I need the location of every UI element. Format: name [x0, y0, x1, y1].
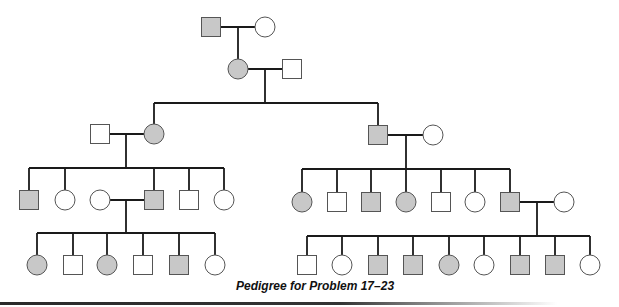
unaffected-male-icon [180, 191, 199, 210]
unaffected-female-icon [580, 255, 600, 275]
affected-male-icon [362, 193, 381, 212]
unaffected-male-icon [298, 256, 317, 275]
figure-caption: Pedigree for Problem 17–23 [236, 279, 394, 293]
unaffected-female-icon [205, 255, 225, 275]
affected-female-icon [439, 255, 459, 275]
unaffected-male-icon [328, 193, 347, 212]
pedigree-lines [29, 27, 590, 255]
affected-male-icon [202, 18, 221, 37]
affected-female-icon [97, 255, 117, 275]
affected-male-icon [369, 126, 388, 145]
affected-female-icon [292, 192, 312, 212]
bottom-rule [0, 302, 619, 305]
affected-female-icon [144, 124, 164, 144]
unaffected-male-icon [91, 125, 110, 144]
affected-female-icon [396, 192, 416, 212]
unaffected-female-icon [90, 190, 110, 210]
affected-female-icon [27, 255, 47, 275]
affected-male-icon [501, 193, 520, 212]
unaffected-male-icon [432, 193, 451, 212]
unaffected-female-icon [255, 17, 275, 37]
unaffected-female-icon [214, 190, 234, 210]
affected-male-icon [20, 191, 39, 210]
unaffected-male-icon [134, 256, 153, 275]
affected-female-icon [228, 59, 248, 79]
unaffected-male-icon [64, 256, 83, 275]
unaffected-female-icon [554, 192, 574, 212]
unaffected-female-icon [474, 255, 494, 275]
affected-male-icon [145, 191, 164, 210]
pedigree-chart [0, 0, 619, 307]
affected-male-icon [404, 256, 423, 275]
affected-male-icon [170, 256, 189, 275]
unaffected-female-icon [332, 255, 352, 275]
unaffected-male-icon [283, 60, 302, 79]
affected-male-icon [546, 256, 565, 275]
affected-male-icon [369, 256, 388, 275]
unaffected-female-icon [465, 192, 485, 212]
unaffected-female-icon [55, 190, 75, 210]
unaffected-female-icon [423, 125, 443, 145]
affected-male-icon [511, 256, 530, 275]
